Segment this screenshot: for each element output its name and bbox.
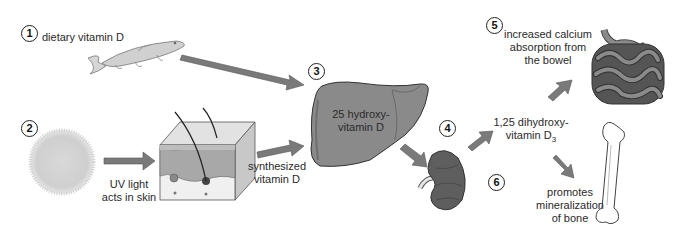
label-line: 1,25 dihydroxy- [487, 116, 575, 129]
arrow-icon [548, 80, 572, 101]
label-line: the bowel [496, 54, 600, 67]
arrow-icon [257, 140, 304, 158]
step-number-6: 6 [488, 174, 505, 191]
label-line: mineralization [528, 199, 612, 212]
sun-icon [30, 130, 94, 194]
step-number-1: 1 [21, 25, 38, 42]
label-line: UV light [94, 178, 164, 191]
label-line: promotes [528, 186, 612, 199]
label-text: vitamin D [506, 129, 552, 141]
step-number-3: 3 [308, 63, 325, 80]
label-1-25-dihydroxy-vitamin-d3: 1,25 dihydroxy- vitamin D3 [487, 116, 575, 146]
fish-icon [88, 41, 184, 74]
label-promotes-mineralization: promotes mineralization of bone [528, 186, 612, 225]
step-number-4: 4 [439, 120, 456, 137]
label-line: vitamin D [324, 121, 398, 134]
label-line: vitamin D [243, 173, 311, 186]
label-dietary-vitamin-d: dietary vitamin D [42, 31, 124, 44]
arrow-icon [180, 55, 304, 90]
label-increased-calcium-absorption: increased calcium absorption from the bo… [496, 28, 600, 67]
label-25-hydroxy-vitamin-d: 25 hydroxy- vitamin D [324, 108, 398, 134]
label-line: of bone [528, 212, 612, 225]
label-line: acts in skin [94, 191, 164, 204]
arrow-icon [400, 144, 427, 167]
subscript: 3 [552, 135, 556, 144]
label-line: synthesized [243, 160, 311, 173]
label-uv-light: UV light acts in skin [94, 178, 164, 204]
intestine-icon [592, 30, 664, 104]
label-line: 25 hydroxy- [324, 108, 398, 121]
arrow-icon [104, 152, 155, 170]
label-synthesized-vitamin-d: synthesized vitamin D [243, 160, 311, 186]
label-line: absorption from [496, 41, 600, 54]
label-line: vitamin D3 [487, 129, 575, 146]
step-number-2: 2 [21, 120, 38, 137]
kidney-icon [420, 151, 465, 210]
skin-cross-section-icon [160, 108, 255, 200]
label-line: increased calcium [496, 28, 600, 41]
arrow-icon [553, 155, 574, 178]
